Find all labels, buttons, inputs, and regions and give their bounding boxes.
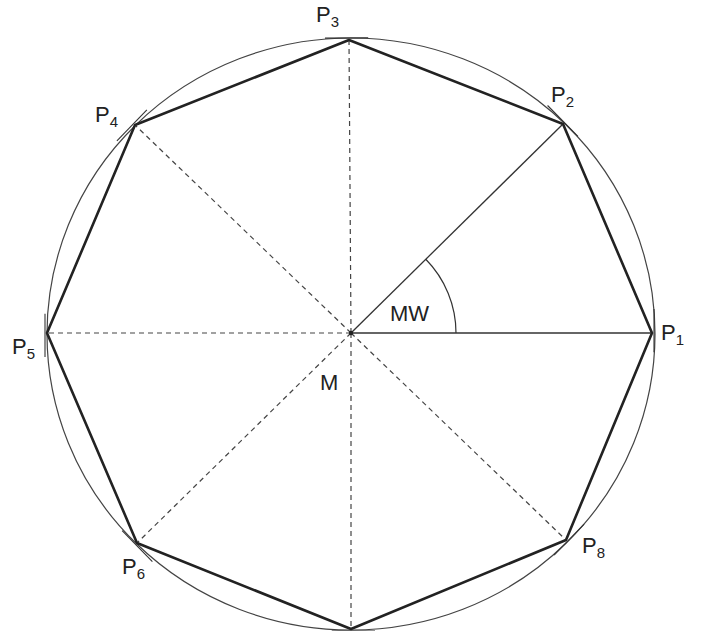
compass-mark-p4 xyxy=(117,110,147,141)
angle-arc-mw xyxy=(426,259,456,333)
label-p1: P1 xyxy=(661,322,684,347)
label-p8: P8 xyxy=(582,535,605,560)
dashed-radius-p3 xyxy=(349,40,351,333)
label-p3: P3 xyxy=(316,4,339,29)
center-point xyxy=(349,331,353,335)
label-p5: P5 xyxy=(12,336,35,361)
angle-label-mw: MW xyxy=(390,303,429,325)
octagon-diagram xyxy=(0,0,713,631)
center-label-m: M xyxy=(320,372,338,394)
label-p6: P6 xyxy=(122,556,145,581)
compass-mark-p8 xyxy=(554,524,584,555)
dashed-radius-p8 xyxy=(351,333,566,540)
label-p4: P4 xyxy=(95,104,118,129)
dashed-radius-p4 xyxy=(135,125,351,333)
label-p2: P2 xyxy=(551,84,574,109)
dashed-radius-p6 xyxy=(137,333,351,543)
radius-p2 xyxy=(351,124,563,333)
